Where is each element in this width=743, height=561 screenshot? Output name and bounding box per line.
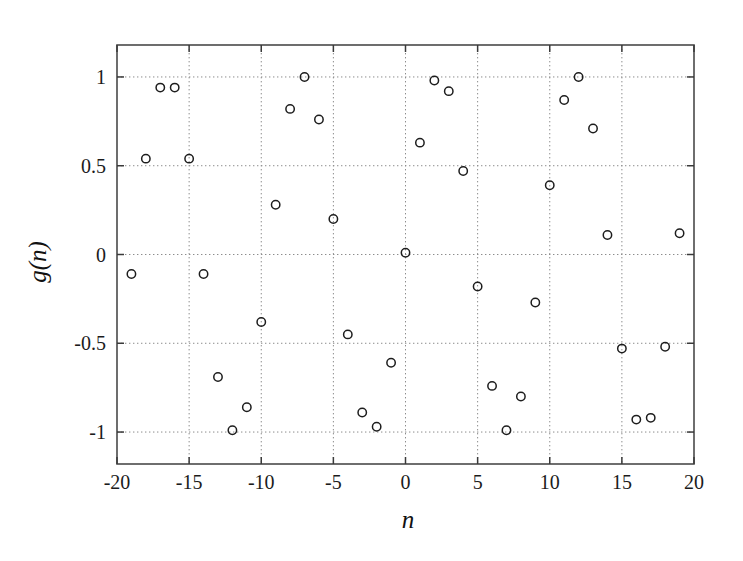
y-axis-tick-labels: -1-0.500.51 <box>74 66 106 443</box>
data-point-marker <box>127 270 135 278</box>
data-point-marker <box>531 298 539 306</box>
data-point-marker <box>445 87 453 95</box>
x-tick-label: 5 <box>473 471 483 493</box>
data-point-marker <box>502 426 510 434</box>
data-point-marker <box>271 201 279 209</box>
x-axis-title: n <box>402 506 415 533</box>
x-tick-label: -10 <box>248 471 275 493</box>
data-point-marker <box>589 124 597 132</box>
data-point-marker <box>372 423 380 431</box>
y-tick-label: -0.5 <box>74 332 106 354</box>
data-point-marker <box>315 115 323 123</box>
y-tick-label: 0.5 <box>81 155 106 177</box>
figure-page: -20-15-10-505101520 -1-0.500.51 n g(n) <box>0 0 743 561</box>
data-point-marker <box>156 83 164 91</box>
y-tick-label: -1 <box>89 421 106 443</box>
data-point-marker <box>603 231 611 239</box>
data-point-marker <box>286 105 294 113</box>
data-point-marker <box>214 373 222 381</box>
scatter-plot-figure: -20-15-10-505101520 -1-0.500.51 n g(n) <box>0 0 743 561</box>
y-tick-label: 1 <box>96 66 106 88</box>
y-axis-title: g(n) <box>24 241 52 283</box>
data-point-marker <box>430 76 438 84</box>
x-tick-label: 20 <box>684 471 704 493</box>
data-point-marker <box>171 83 179 91</box>
x-tick-label: -5 <box>325 471 342 493</box>
x-axis-tick-labels: -20-15-10-505101520 <box>104 471 704 493</box>
grid-lines <box>117 45 694 464</box>
plot-canvas: -20-15-10-505101520 -1-0.500.51 n g(n) <box>0 0 743 561</box>
data-point-marker <box>142 154 150 162</box>
data-point-marker <box>243 403 251 411</box>
data-point-marker <box>661 343 669 351</box>
data-point-marker <box>416 138 424 146</box>
data-point-marker <box>675 229 683 237</box>
data-point-marker <box>459 167 467 175</box>
data-point-marker <box>387 359 395 367</box>
x-tick-label: -15 <box>176 471 203 493</box>
data-point-marker <box>560 96 568 104</box>
data-point-marker <box>488 382 496 390</box>
data-point-marker <box>358 408 366 416</box>
x-tick-label: 15 <box>612 471 632 493</box>
x-tick-label: 0 <box>401 471 411 493</box>
x-tick-label: -20 <box>104 471 131 493</box>
data-point-marker <box>517 392 525 400</box>
data-point-marker <box>344 330 352 338</box>
y-tick-label: 0 <box>96 244 106 266</box>
data-point-marker <box>632 415 640 423</box>
data-point-marker <box>199 270 207 278</box>
data-point-marker <box>647 414 655 422</box>
data-point-marker <box>228 426 236 434</box>
x-tick-label: 10 <box>540 471 560 493</box>
